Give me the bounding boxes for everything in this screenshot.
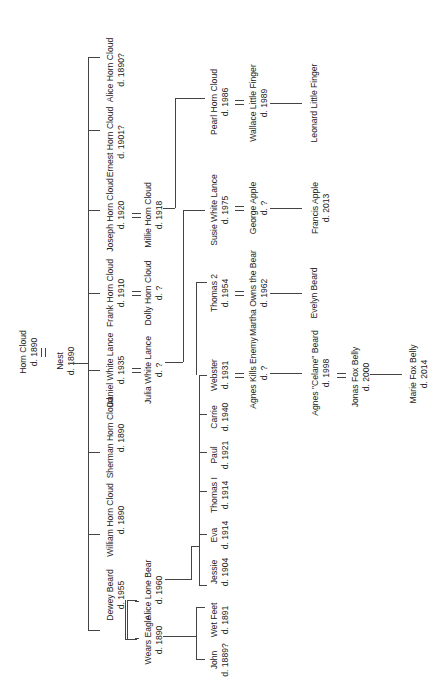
connector-line bbox=[270, 373, 302, 374]
person-name: George Apple bbox=[248, 182, 259, 235]
sibling-bar bbox=[199, 375, 200, 585]
marriage-bracket bbox=[135, 601, 139, 602]
marriage-symbol bbox=[132, 291, 141, 296]
person-death: d. 1962 bbox=[258, 250, 269, 336]
person-name: Carrie bbox=[209, 403, 220, 432]
person-death: d. 1890 bbox=[65, 347, 76, 376]
marriage-symbol bbox=[235, 206, 244, 211]
person-name: Susie White Lance bbox=[209, 174, 220, 246]
connector-line bbox=[196, 607, 205, 608]
person-death: d. 1890 bbox=[115, 483, 126, 557]
person-death: d. ? bbox=[258, 337, 269, 409]
person-name: John bbox=[209, 643, 220, 676]
sibling-bar bbox=[183, 210, 184, 362]
person-death: d. 1935 bbox=[115, 333, 126, 408]
person-death: d. 1955 bbox=[115, 569, 126, 621]
person-name: Pearl Horn Cloud bbox=[209, 69, 220, 135]
connector-line bbox=[70, 363, 88, 364]
marriage-symbol bbox=[235, 373, 244, 378]
person-name: Julia White Lance bbox=[143, 336, 154, 404]
person-name: Jonas Fox Belly bbox=[350, 347, 361, 408]
person-death: d. 1890 bbox=[115, 398, 126, 479]
connector-line bbox=[163, 636, 196, 637]
person-death: d. 1920 bbox=[115, 178, 126, 252]
person-death: d. ? bbox=[153, 336, 164, 404]
connector-line bbox=[165, 362, 183, 363]
connector-line bbox=[199, 452, 207, 453]
person-death: d. 1918 bbox=[153, 182, 164, 247]
person-death: d. 1931 bbox=[219, 359, 230, 391]
connector-line bbox=[183, 210, 205, 211]
person-death: d. 1891 bbox=[219, 603, 230, 638]
person-death: d. 1975 bbox=[219, 174, 230, 246]
person-death: d. 1890 bbox=[153, 615, 164, 664]
person-name: Leonard Little Finger bbox=[309, 64, 320, 143]
person-name: Francis Apple bbox=[310, 182, 321, 234]
connector-line bbox=[270, 103, 302, 104]
family-tree-diagram: Horn Cloudd. 1890 Nestd. 1890 Dewey Bear… bbox=[0, 0, 433, 690]
person-death: d. 1989 bbox=[258, 64, 269, 142]
marriage-bracket bbox=[127, 600, 128, 639]
person-name: Frank Horn Cloud bbox=[105, 259, 116, 327]
connector-line bbox=[199, 585, 207, 586]
connector-line bbox=[88, 534, 100, 535]
person-death: d. 2013 bbox=[320, 182, 331, 234]
marriage-symbol bbox=[132, 213, 141, 218]
connector-line bbox=[370, 374, 402, 375]
person-death: d. 1889? bbox=[219, 643, 230, 676]
person-name: Wallace Little Finger bbox=[248, 64, 259, 142]
person-death: d. ? bbox=[258, 182, 269, 235]
marriage-symbol bbox=[132, 368, 141, 373]
person-death: d. 1910 bbox=[115, 259, 126, 327]
person-name: Martha Owns the Bear bbox=[248, 250, 259, 336]
person-death: d. 1986 bbox=[219, 69, 230, 135]
connector-line bbox=[196, 659, 205, 660]
connector-line bbox=[270, 208, 302, 209]
marriage-symbol bbox=[235, 291, 244, 296]
marriage-symbol bbox=[235, 100, 244, 105]
person-name: Evelyn Beard bbox=[309, 267, 320, 318]
marriage-bracket bbox=[125, 639, 137, 640]
connector-line bbox=[88, 293, 100, 294]
connector-line bbox=[199, 534, 207, 535]
person-name: Daniel White Lance bbox=[105, 333, 116, 408]
person-name: Agnes Kills Enemy bbox=[248, 337, 259, 409]
connector-line bbox=[199, 375, 207, 376]
marriage-bracket bbox=[135, 638, 139, 639]
person-name: Jessie bbox=[209, 558, 220, 587]
person-death: d. 1901? bbox=[115, 107, 126, 178]
sibling-bar bbox=[175, 98, 176, 208]
connector-line bbox=[175, 98, 205, 99]
sibling-bar bbox=[196, 282, 197, 375]
person-name: Webster bbox=[209, 359, 220, 391]
person-name: Sherman Horn Cloud bbox=[105, 398, 116, 479]
person-name: Wears Eagle bbox=[143, 615, 154, 664]
connector-line bbox=[88, 130, 100, 131]
marriage-bracket bbox=[125, 600, 126, 639]
person-death: d. 2014 bbox=[418, 344, 429, 403]
sibling-bar bbox=[88, 57, 89, 630]
person-death: d. 1890 bbox=[28, 330, 39, 373]
person-death: d. 1921 bbox=[219, 441, 230, 470]
marriage-symbol bbox=[41, 348, 46, 357]
person-death: d. 2000 bbox=[360, 347, 371, 408]
connector-line bbox=[199, 491, 207, 492]
connector-line bbox=[88, 630, 100, 631]
person-death: d. 1890? bbox=[115, 38, 126, 102]
person-name: Thomas I bbox=[209, 477, 220, 513]
person-name: Horn Cloud bbox=[18, 330, 29, 373]
connector-line bbox=[88, 370, 100, 371]
person-name: Marie Fox Belly bbox=[408, 344, 419, 403]
person-name: Ernest Horn Cloud bbox=[105, 107, 116, 178]
person-name: William Horn Cloud bbox=[105, 483, 116, 557]
person-death: d. 1954 bbox=[219, 274, 230, 312]
person-death: d. 1914 bbox=[219, 521, 230, 550]
connector-line bbox=[196, 282, 207, 283]
person-name: Alice Horn Cloud bbox=[105, 38, 116, 102]
person-death: d. 1904 bbox=[219, 558, 230, 587]
person-name: Dewey Beard bbox=[105, 569, 116, 621]
person-name: Thomas 2 bbox=[209, 274, 220, 312]
connector-line bbox=[88, 452, 100, 453]
person-death: d. 1998 bbox=[320, 330, 331, 415]
person-name: Joseph Horn Cloud bbox=[105, 178, 116, 252]
